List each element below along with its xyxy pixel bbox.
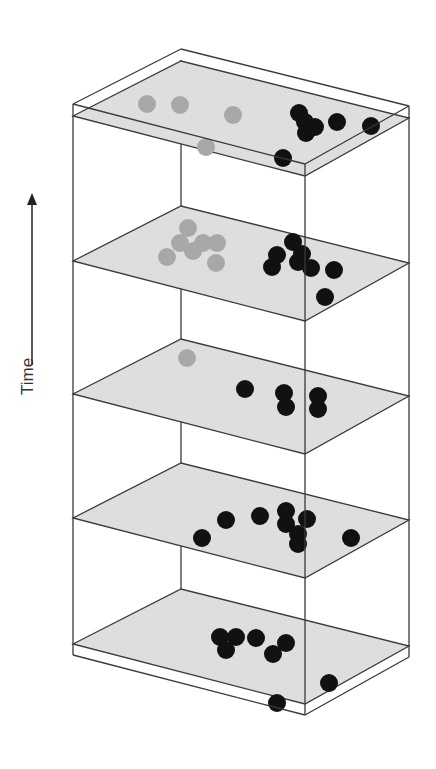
active-dot (309, 400, 327, 418)
active-dot (316, 288, 334, 306)
time-arrow (27, 193, 37, 365)
active-dot (342, 529, 360, 547)
active-dot (217, 511, 235, 529)
inactive-dot (178, 349, 196, 367)
active-dot (193, 529, 211, 547)
inactive-dot (208, 234, 226, 252)
stacked-time-layers-diagram: Time (0, 0, 436, 769)
active-dot (297, 124, 315, 142)
time-layers (73, 61, 409, 712)
active-dot (217, 641, 235, 659)
layer-3 (73, 339, 409, 454)
time-plane (73, 589, 409, 704)
active-dot (328, 113, 346, 131)
inactive-dot (197, 138, 215, 156)
inactive-dot (158, 248, 176, 266)
time-axis-label: Time (18, 358, 38, 395)
inactive-dot (207, 254, 225, 272)
active-dot (289, 535, 307, 553)
layer-2 (73, 463, 409, 578)
layer-4 (73, 206, 409, 321)
3d-box-diagram (0, 0, 436, 769)
active-dot (247, 629, 265, 647)
inactive-dot (138, 95, 156, 113)
inactive-dot (171, 96, 189, 114)
active-dot (263, 258, 281, 276)
time-plane (73, 463, 409, 578)
active-dot (362, 117, 380, 135)
active-dot (320, 674, 338, 692)
active-dot (277, 398, 295, 416)
arrow-head-icon (27, 193, 37, 205)
active-dot (236, 380, 254, 398)
time-plane (73, 206, 409, 321)
layer-1-bottom (73, 589, 409, 712)
active-dot (298, 510, 316, 528)
inactive-dot (224, 106, 242, 124)
active-dot (251, 507, 269, 525)
active-dot (264, 645, 282, 663)
active-dot (325, 261, 343, 279)
